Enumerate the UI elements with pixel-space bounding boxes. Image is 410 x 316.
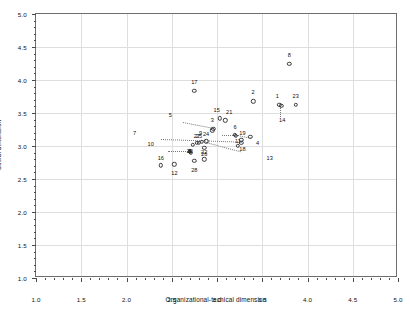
data-point[interactable] xyxy=(294,103,298,107)
y-axis-minor-tick xyxy=(34,271,36,272)
gridline-horizontal xyxy=(36,80,396,81)
x-axis-minor-tick xyxy=(136,278,137,280)
data-point[interactable] xyxy=(218,116,222,120)
y-axis-tick-label: 4.5 xyxy=(18,44,27,51)
y-axis-minor-tick xyxy=(34,40,36,41)
data-point-label: 27 xyxy=(194,133,200,139)
x-axis-minor-tick xyxy=(244,278,245,280)
y-axis-tick-label: 3.0 xyxy=(18,143,27,150)
y-axis-minor-tick xyxy=(34,106,36,107)
y-axis-minor-tick xyxy=(34,67,36,68)
data-point-label: 16 xyxy=(158,155,164,161)
x-axis-minor-tick xyxy=(108,278,109,280)
data-point[interactable] xyxy=(210,128,214,132)
x-axis-minor-tick xyxy=(54,278,55,280)
x-axis-minor-tick xyxy=(317,278,318,280)
data-point-label: 3 xyxy=(211,117,214,123)
x-axis-tick xyxy=(127,278,128,282)
y-axis-tick-label: 5.0 xyxy=(18,11,27,18)
y-axis-minor-tick xyxy=(34,21,36,22)
data-point-label: 6 xyxy=(233,124,236,130)
x-axis-minor-tick xyxy=(335,278,336,280)
gridline-horizontal xyxy=(36,245,396,246)
y-axis-title: Social dimension xyxy=(0,120,2,171)
data-point[interactable] xyxy=(287,61,291,65)
y-axis-minor-tick xyxy=(34,265,36,266)
gridline-vertical xyxy=(353,14,354,276)
x-axis-minor-tick xyxy=(380,278,381,280)
x-axis-minor-tick xyxy=(154,278,155,280)
y-axis-minor-tick xyxy=(34,93,36,94)
x-axis-minor-tick xyxy=(271,278,272,280)
x-axis-minor-tick xyxy=(90,278,91,280)
gridline-horizontal xyxy=(36,179,396,180)
y-axis-minor-tick xyxy=(34,87,36,88)
data-point-label: 23 xyxy=(293,93,299,99)
gridline-vertical xyxy=(308,14,309,276)
y-axis-minor-tick xyxy=(34,205,36,206)
data-point-label: 2 xyxy=(252,89,255,95)
data-point[interactable] xyxy=(202,157,206,161)
y-axis-tick xyxy=(32,146,36,147)
x-axis-tick xyxy=(217,278,218,282)
data-point-label: 8 xyxy=(288,52,291,58)
data-point-label: 17 xyxy=(191,79,197,85)
y-axis-minor-tick xyxy=(34,166,36,167)
data-point-label: 24 xyxy=(203,131,209,137)
x-axis-minor-tick xyxy=(344,278,345,280)
y-axis-minor-tick xyxy=(34,100,36,101)
label-leader-line xyxy=(182,122,213,129)
x-axis-minor-tick xyxy=(298,278,299,280)
x-axis-minor-tick xyxy=(371,278,372,280)
data-point-label: 19 xyxy=(239,130,245,136)
data-point[interactable] xyxy=(251,99,255,103)
x-axis-tick xyxy=(172,278,173,282)
data-point[interactable] xyxy=(223,118,227,122)
plot-area: 1.01.52.02.53.03.54.04.55.01.01.52.02.53… xyxy=(35,13,397,277)
data-point[interactable] xyxy=(279,104,283,108)
x-axis-minor-tick xyxy=(362,278,363,280)
gridline-vertical xyxy=(81,14,82,276)
y-axis-tick xyxy=(32,179,36,180)
data-point-label: 21 xyxy=(226,109,232,115)
y-axis-tick-label: 4.0 xyxy=(18,77,27,84)
data-point[interactable] xyxy=(248,135,252,139)
x-axis-minor-tick xyxy=(145,278,146,280)
x-axis-minor-tick xyxy=(289,278,290,280)
x-axis-minor-tick xyxy=(190,278,191,280)
y-axis-minor-tick xyxy=(34,126,36,127)
data-point-label: 5 xyxy=(169,112,172,118)
x-axis-tick xyxy=(308,278,309,282)
y-axis-tick xyxy=(32,14,36,15)
gridline-vertical xyxy=(172,14,173,276)
y-axis-minor-tick xyxy=(34,219,36,220)
x-axis-tick xyxy=(262,278,263,282)
data-point[interactable] xyxy=(159,163,163,167)
y-axis-tick-label: 2.5 xyxy=(18,176,27,183)
data-point-label: 1 xyxy=(276,93,279,99)
data-point-label: 10 xyxy=(148,141,154,147)
y-axis-minor-tick xyxy=(34,27,36,28)
y-axis-tick xyxy=(32,212,36,213)
x-axis-minor-tick xyxy=(45,278,46,280)
y-axis-minor-tick xyxy=(34,199,36,200)
gridline-horizontal xyxy=(36,146,396,147)
data-point-label: 20 xyxy=(187,148,193,154)
x-axis-minor-tick xyxy=(63,278,64,280)
data-point-label: 7 xyxy=(133,130,136,136)
y-axis-minor-tick xyxy=(34,225,36,226)
x-axis-minor-tick xyxy=(389,278,390,280)
x-axis-minor-tick xyxy=(117,278,118,280)
y-axis-minor-tick xyxy=(34,252,36,253)
y-axis-tick xyxy=(32,80,36,81)
x-axis-tick xyxy=(36,278,37,282)
data-point[interactable] xyxy=(172,162,176,166)
gridline-horizontal xyxy=(36,47,396,48)
data-point-label: 18 xyxy=(239,146,245,152)
data-point-label: 12 xyxy=(171,170,177,176)
data-point[interactable] xyxy=(192,88,196,92)
data-point[interactable] xyxy=(192,158,196,162)
x-axis-minor-tick xyxy=(235,278,236,280)
y-axis-minor-tick xyxy=(34,258,36,259)
data-point-label: 15 xyxy=(213,107,219,113)
